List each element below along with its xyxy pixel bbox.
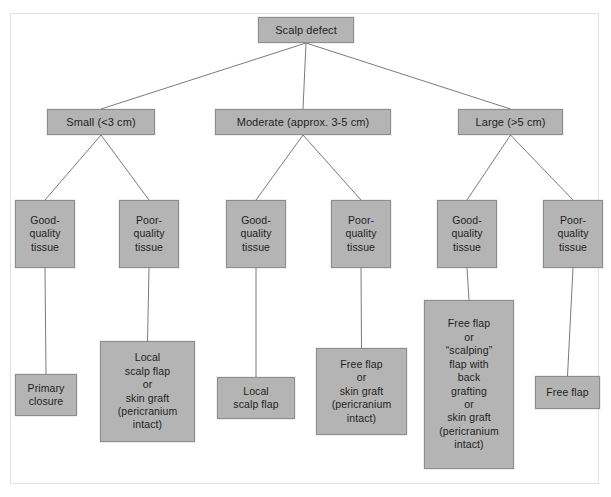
outcome-node-outcome-local-scalp-flap-or-skin-graft: Local scalp flap or skin graft (pericran…	[100, 341, 195, 442]
tissue-node-large-good: Good- quality tissue	[437, 200, 497, 268]
tissue-node-moderate-good: Good- quality tissue	[226, 200, 286, 268]
outcome-node-outcome-local-scalp-flap: Local scalp flap	[217, 377, 295, 419]
tissue-node-moderate-poor: Poor- quality tissue	[331, 200, 391, 268]
category-node-moderate: Moderate (approx. 3-5 cm)	[215, 109, 391, 135]
category-node-large: Large (>5 cm)	[458, 109, 563, 135]
diagram-canvas: Scalp defectSmall (<3 cm)Moderate (appro…	[0, 0, 611, 497]
outcome-node-outcome-free-flap-or-scalping-flap: Free flap or “scalping” flap with back g…	[424, 300, 514, 469]
tissue-node-large-poor: Poor- quality tissue	[543, 200, 603, 268]
outcome-node-outcome-primary-closure: Primary closure	[15, 374, 77, 416]
outcome-node-outcome-free-flap-or-skin-graft: Free flap or skin graft (pericranium int…	[316, 348, 407, 435]
category-node-small: Small (<3 cm)	[47, 109, 155, 135]
root-node-scalp-defect: Scalp defect	[258, 17, 354, 43]
tissue-node-small-good: Good- quality tissue	[15, 200, 75, 268]
outcome-node-outcome-free-flap: Free flap	[535, 376, 600, 409]
tissue-node-small-poor: Poor- quality tissue	[119, 200, 179, 268]
